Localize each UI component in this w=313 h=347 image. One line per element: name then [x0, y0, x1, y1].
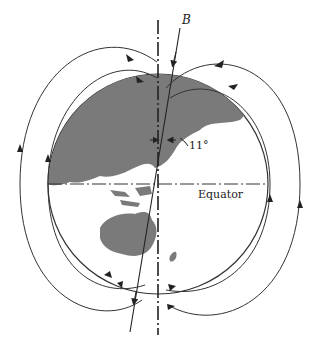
- angle-label: 11°: [189, 139, 209, 152]
- equator-label: Equator: [198, 188, 244, 201]
- b-label: B: [181, 13, 191, 27]
- magnetic-field-diagram: Equator B 11°: [0, 0, 313, 347]
